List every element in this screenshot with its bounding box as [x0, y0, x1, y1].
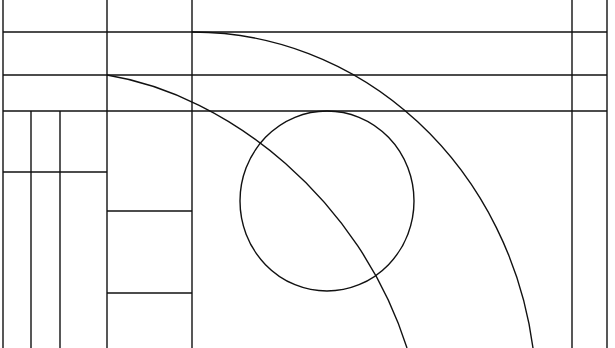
circle: [240, 111, 414, 291]
outer-arc: [192, 32, 533, 348]
horizontal-grid-lines: [3, 32, 607, 293]
line-drawing: [0, 0, 615, 348]
